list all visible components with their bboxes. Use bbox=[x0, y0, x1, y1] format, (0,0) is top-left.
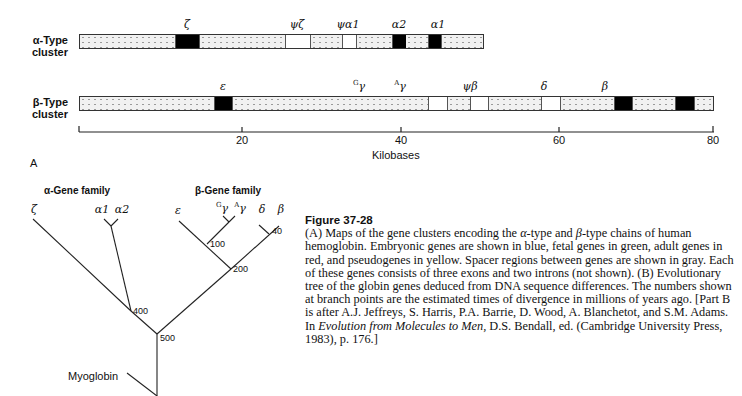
axis-tick-20: 20 bbox=[236, 134, 248, 146]
a-gamma-base: γ bbox=[239, 202, 246, 215]
axis-tick-40: 40 bbox=[395, 134, 407, 146]
caption-book-title: Evolution from Molecules to Men, bbox=[318, 319, 486, 333]
tree-leaf-delta: δ bbox=[259, 203, 266, 216]
node-label-500: 500 bbox=[160, 333, 175, 343]
kilobase-axis bbox=[79, 126, 714, 132]
tree-leaf-epsilon: ε bbox=[175, 204, 181, 217]
caption-text-2: -type and bbox=[527, 226, 576, 240]
caption-text-1: (A) Maps of the gene clusters encoding t… bbox=[305, 226, 520, 240]
tree-leaf-myoglobin: Myoglobin bbox=[68, 370, 118, 382]
alpha-gene-family-title: α-Gene family bbox=[44, 185, 110, 196]
tree-leaf-beta: β bbox=[278, 203, 284, 216]
tree-leaf-zeta: ζ bbox=[31, 203, 37, 216]
node-label-400: 400 bbox=[133, 306, 148, 316]
caption-text-3: -type chains of human hemoglobin. Embryo… bbox=[305, 226, 734, 332]
figure-caption: Figure 37-28 (A) Maps of the gene cluste… bbox=[305, 214, 735, 346]
node-label-100: 100 bbox=[210, 239, 225, 249]
tree-leaf-alpha1: α1 bbox=[95, 203, 109, 216]
axis-title: Kilobases bbox=[372, 149, 420, 161]
beta-gene-family-title: β-Gene family bbox=[195, 185, 261, 196]
axis-tick-80: 80 bbox=[707, 134, 719, 146]
axis-tick-60: 60 bbox=[553, 134, 565, 146]
tree-leaf-alpha2: α2 bbox=[115, 203, 129, 216]
evolutionary-tree bbox=[33, 216, 279, 396]
node-label-40: 40 bbox=[272, 226, 282, 236]
panel-label-a: A bbox=[30, 157, 37, 169]
tree-leaf-g-gamma: Gγ bbox=[216, 201, 228, 215]
tree-leaf-a-gamma: Aγ bbox=[234, 201, 246, 215]
g-gamma-base: γ bbox=[222, 202, 229, 215]
node-label-200: 200 bbox=[233, 264, 248, 274]
